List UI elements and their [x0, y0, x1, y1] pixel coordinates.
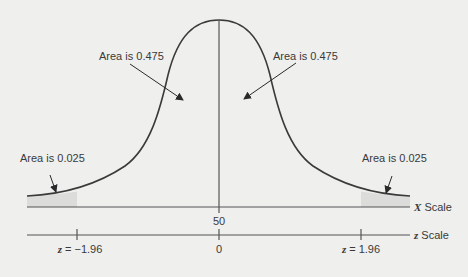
annotation-area-tail-right: Area is 0.025 [362, 152, 427, 165]
arrow-center-right [244, 63, 296, 99]
z-scale-label: z Scale [414, 229, 449, 242]
z-tick-label-right: z = 1.96 [342, 243, 380, 256]
z-right-val: = 1.96 [346, 243, 380, 255]
annotation-area-tail-left: Area is 0.025 [20, 152, 85, 165]
z-scale-word: Scale [418, 229, 449, 241]
z-tick-label-zero: 0 [216, 243, 222, 256]
x-scale-label: X Scale [414, 201, 452, 214]
z-tick-label-left: z = −1.96 [58, 243, 103, 256]
diagram-svg [0, 0, 468, 277]
z-left-val: = −1.96 [62, 243, 102, 255]
annotation-area-center-right: Area is 0.475 [273, 50, 338, 63]
arrow-tail-right [386, 176, 392, 193]
normal-distribution-diagram: Area is 0.475 Area is 0.475 Area is 0.02… [0, 0, 468, 277]
x-scale-word: Scale [421, 201, 452, 213]
arrow-tail-left [50, 175, 56, 192]
annotation-area-center-left: Area is 0.475 [99, 50, 164, 63]
x-tick-label-mean: 50 [213, 215, 225, 228]
arrow-center-left [130, 64, 183, 100]
